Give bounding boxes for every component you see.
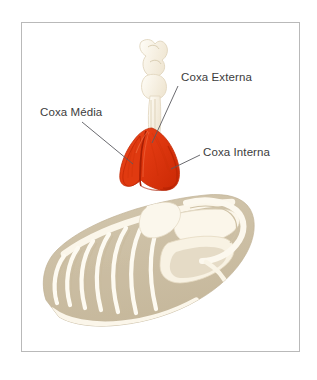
- leader-line-coxa-media: [82, 122, 133, 164]
- label-coxa-interna: Coxa Interna: [203, 146, 270, 159]
- anatomy-illustration: [0, 0, 317, 380]
- thigh-muscle-group: [120, 128, 180, 190]
- illustration-page: Coxa Externa Coxa Média Coxa Interna: [0, 0, 317, 380]
- label-coxa-externa: Coxa Externa: [181, 71, 252, 84]
- label-coxa-media: Coxa Média: [40, 106, 102, 119]
